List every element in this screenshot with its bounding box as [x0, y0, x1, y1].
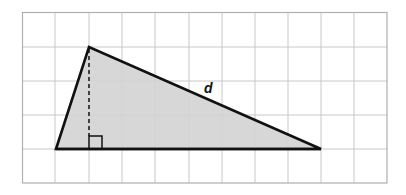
label-d: d	[204, 80, 213, 96]
diagram-canvas: d	[0, 0, 406, 195]
